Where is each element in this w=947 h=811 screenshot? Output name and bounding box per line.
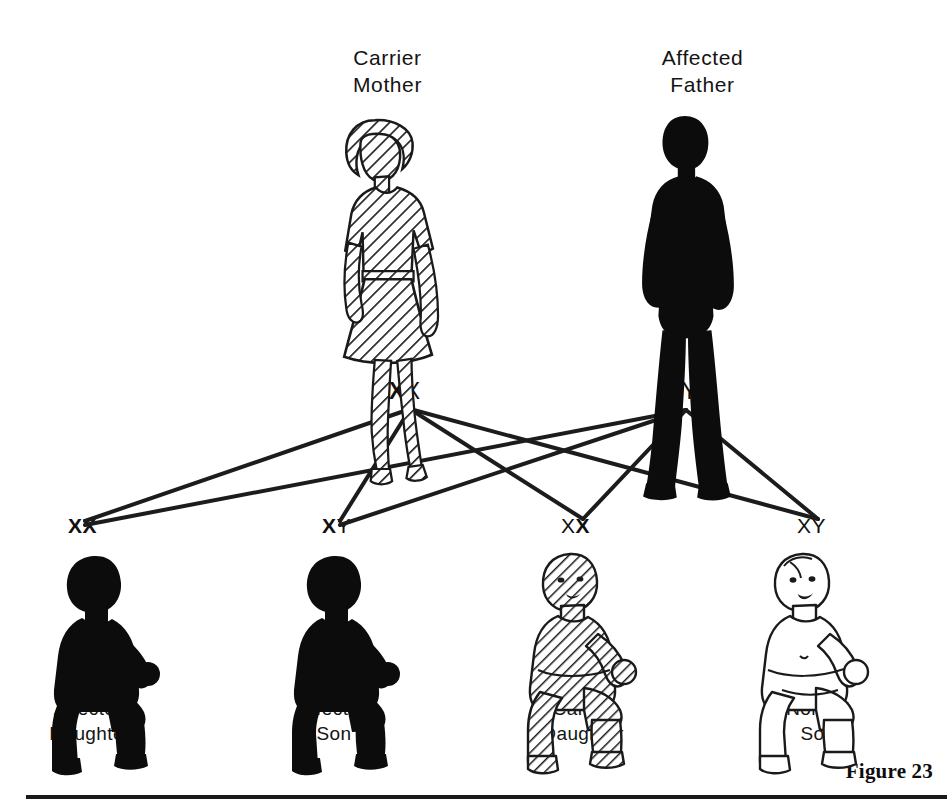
figure-number-label: Figure 23 <box>846 759 933 784</box>
genotype-label-child-1: XY <box>322 514 351 538</box>
allele-child-0-0: X <box>68 514 83 537</box>
parent-caption-father: Affected Father <box>615 44 790 99</box>
allele-child-2-1: X <box>576 514 591 537</box>
allele-mother-0: X <box>389 378 405 404</box>
genotype-label-mother: XX <box>389 378 421 405</box>
parent-caption-mother: Carrier Mother <box>300 44 475 99</box>
allele-child-0-1: X <box>83 514 98 537</box>
allele-child-3-0: X <box>797 514 812 537</box>
child-caption-normal-son: Normal Son <box>728 697 908 746</box>
allele-child-2-0: X <box>561 514 576 537</box>
allele-child-1-0: X <box>322 514 337 537</box>
figure-root: Carrier Mother Affected Father <box>0 0 947 811</box>
line-mother-to-child-1 <box>340 409 410 521</box>
allele-father-0: X <box>666 378 682 404</box>
line-father-to-child-0 <box>85 410 686 525</box>
figure-people-artwork <box>0 0 947 811</box>
person-figure-mother <box>344 120 438 484</box>
line-mother-to-child-0 <box>85 409 410 521</box>
genotype-label-child-0: XX <box>68 514 97 538</box>
inheritance-lines <box>0 0 947 811</box>
genotype-label-child-2: XX <box>561 514 590 538</box>
line-father-to-child-1 <box>340 410 686 525</box>
genotype-label-father: XY <box>666 378 698 405</box>
child-caption-carrier-daughter: Carrier Daughter <box>493 697 673 746</box>
line-mother-to-child-3 <box>410 409 818 519</box>
line-father-to-child-3 <box>686 410 818 519</box>
allele-child-3-1: Y <box>812 514 827 537</box>
line-mother-to-child-2 <box>410 409 583 519</box>
allele-child-1-1: Y <box>337 514 352 537</box>
child-caption-affected-son: Affected Son <box>244 697 424 746</box>
person-figure-father <box>642 116 734 500</box>
child-caption-affected-daughter: Affected Daughter <box>0 697 180 746</box>
allele-mother-1: X <box>405 378 421 404</box>
allele-father-1: Y <box>682 378 698 404</box>
genotype-label-child-3: XY <box>797 514 826 538</box>
line-father-to-child-2 <box>583 410 686 519</box>
figure-bottom-rule <box>26 795 947 799</box>
